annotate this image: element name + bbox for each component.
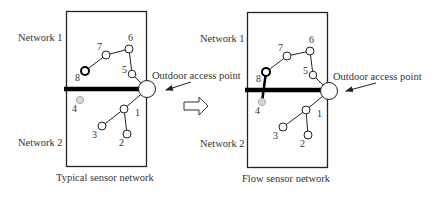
network-1-label: Network 1 (200, 33, 245, 44)
access-point-node (139, 81, 156, 98)
sensor-network-diagram: Network 1 Network 2 7 6 5 8 4 1 (0, 0, 442, 198)
node-2-label: 2 (119, 137, 124, 148)
node-8-label: 8 (256, 73, 261, 84)
access-point-node (321, 83, 338, 100)
node-7 (102, 51, 110, 59)
node-6 (125, 45, 133, 53)
node-5 (128, 70, 136, 78)
node-2-label: 2 (300, 138, 305, 149)
node-2 (304, 131, 312, 139)
network-2-label: Network 2 (18, 137, 63, 148)
node-1 (120, 105, 128, 113)
edges (85, 49, 147, 134)
hollow-right-arrow-icon (184, 97, 208, 115)
node-1-label: 1 (317, 108, 322, 119)
flow-network-panel: Network 1 Network 2 7 6 5 8 4 1 3 2 (200, 13, 338, 185)
node-4-label: 4 (255, 105, 260, 116)
access-point-label-right: Outdoor access point (333, 71, 422, 82)
node-3-label: 3 (92, 129, 97, 140)
node-5-label: 5 (303, 65, 308, 76)
node-8 (81, 67, 89, 75)
node-5-label: 5 (122, 64, 127, 75)
node-7-label: 7 (97, 41, 102, 52)
node-8-label: 8 (75, 72, 80, 83)
node-6 (306, 47, 314, 55)
caption-flow: Flow sensor network (242, 173, 331, 184)
node-8 (262, 68, 270, 76)
pointer-arrow-right (346, 83, 376, 91)
node-4-label: 4 (72, 103, 77, 114)
node-6-label: 6 (309, 34, 314, 45)
node-7 (283, 52, 291, 60)
node-3 (279, 123, 287, 131)
node-4 (76, 96, 83, 103)
node-1-label: 1 (135, 107, 140, 118)
node-7-label: 7 (278, 42, 283, 53)
access-point-label-left: Outdoor access point (152, 70, 241, 81)
network-2-label: Network 2 (200, 138, 245, 149)
caption-typical: Typical sensor network (56, 172, 155, 183)
node-6-label: 6 (128, 32, 133, 43)
node-3 (98, 122, 106, 130)
edges (266, 51, 329, 135)
node-2 (123, 130, 131, 138)
node-3-label: 3 (273, 130, 278, 141)
node-5 (309, 71, 317, 79)
typical-network-panel: Network 1 Network 2 7 6 5 8 4 1 (18, 12, 156, 184)
pointer-arrow-left (166, 82, 191, 90)
node-1 (302, 106, 310, 114)
network-1-label: Network 1 (18, 32, 63, 43)
